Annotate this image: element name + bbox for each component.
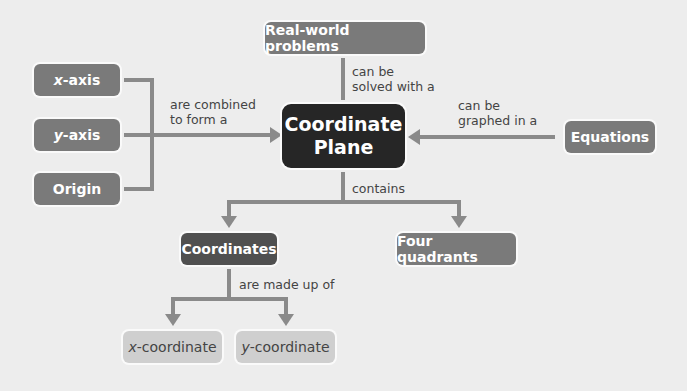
node-label: -axis [63,72,100,88]
arrow-to-coordinates [221,216,237,228]
node-origin: Origin [34,173,120,205]
edge-label-line: are combined [170,97,256,112]
edge-label-contains: contains [352,181,405,196]
node-x-coordinate: x-coordinate [123,331,222,363]
arrow-to-center-right [408,129,420,145]
node-real-world-problems: Real-world problems [265,22,425,54]
node-equations: Equations [565,121,655,153]
node-y-axis: y-axis [34,119,120,151]
node-label: -coordinate [250,339,330,355]
node-coordinates: Coordinates [181,233,277,265]
edge-label-line: can be [458,98,537,113]
arrow-to-y-coordinate [278,314,294,326]
center-title-line1: Coordinate [285,113,403,136]
edge-label-combined: are combinedto form a [170,97,256,127]
node-label: Real-world problems [265,22,425,54]
node-y-coordinate: y-coordinate [236,331,335,363]
edge-label-line: can be [352,64,435,79]
variable-x: x [54,72,63,88]
node-label: -coordinate [137,339,217,355]
center-title-line2: Plane [314,136,374,159]
variable-y: y [54,127,63,143]
edge-label-made-up: are made up of [239,277,335,292]
variable-y: y [241,339,249,355]
node-label: Coordinates [181,241,276,257]
node-coordinate-plane: Coordinate Plane [282,104,405,168]
edge-label-line: to form a [170,112,256,127]
node-label: Origin [53,181,101,197]
variable-x: x [128,339,136,355]
edge-label-line: graphed in a [458,113,537,128]
node-label: -axis [63,127,100,143]
edge-label-line: solved with a [352,79,435,94]
edge-label-graphed: can begraphed in a [458,98,537,128]
node-four-quadrants: Four quadrants [397,233,516,265]
node-label: Equations [571,129,649,145]
node-x-axis: x-axis [34,64,120,96]
node-label: Four quadrants [397,233,516,265]
arrow-to-quadrants [451,216,467,228]
arrow-to-x-coordinate [165,314,181,326]
edge-label-solved: can besolved with a [352,64,435,94]
arrow-to-center-left [270,127,282,143]
